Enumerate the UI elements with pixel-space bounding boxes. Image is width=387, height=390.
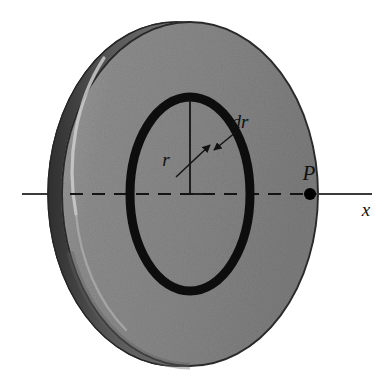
field-point-P-marker [304, 188, 316, 200]
label-ring-thickness-dr: dr [232, 111, 250, 132]
disk-diagram-svg: r dr P x [0, 0, 387, 390]
label-axis-x: x [361, 199, 371, 220]
label-radius-r: r [162, 149, 170, 170]
label-field-point-P: P [302, 161, 316, 185]
physics-diagram-canvas: r dr P x [0, 0, 387, 390]
